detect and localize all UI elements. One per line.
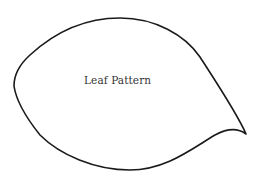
- leaf-outline: [0, 0, 268, 188]
- pattern-title: Leaf Pattern: [84, 74, 151, 86]
- leaf-outline-path: [14, 18, 246, 170]
